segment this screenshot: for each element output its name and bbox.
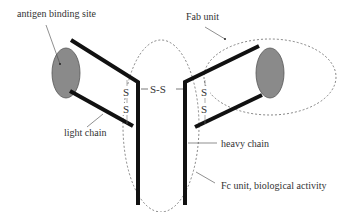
left-s2-label: S	[123, 103, 129, 115]
light-chain-leader	[87, 114, 103, 127]
fc-unit-region	[123, 40, 199, 212]
antibody-diagram: S-S S S S S antigen binding site Fab uni…	[0, 0, 352, 212]
right-s1-label: S	[201, 86, 207, 98]
fc-unit-leader	[196, 172, 215, 183]
left-antigen-binding-site	[52, 48, 80, 98]
antigen-binding-site-label: antigen binding site	[17, 8, 96, 19]
fab-unit-leader	[205, 27, 225, 39]
antigen-binding-site-leader	[46, 25, 60, 64]
heavy-chain-label: heavy chain	[221, 138, 269, 149]
hinge-disulfide-label: S-S	[150, 83, 166, 95]
light-chain-label: light chain	[64, 127, 107, 138]
right-s2-label: S	[201, 103, 207, 115]
fc-unit-label: Fc unit, biological activity	[221, 180, 327, 191]
left-s1-label: S	[123, 86, 129, 98]
fab-unit-label: Fab unit	[186, 11, 219, 22]
right-antigen-binding-site	[256, 48, 284, 98]
diagram-svg: S-S S S S S antigen binding site Fab uni…	[0, 0, 352, 212]
